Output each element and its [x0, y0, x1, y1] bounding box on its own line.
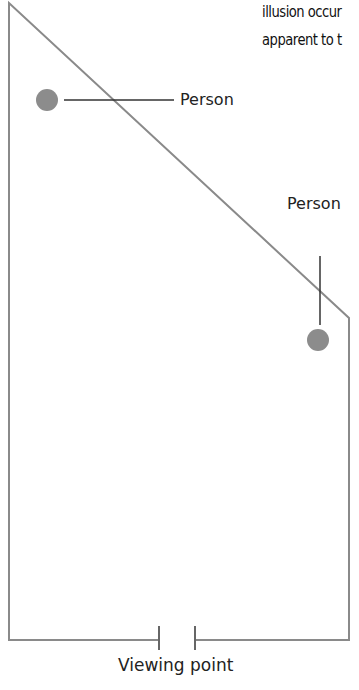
person-label-1: Person: [180, 90, 234, 109]
person-dot-1: [36, 89, 58, 111]
person-label-2: Person: [287, 194, 341, 213]
viewing-point-label: Viewing point: [118, 655, 233, 675]
person-dot-2: [307, 329, 329, 351]
room-outline: [9, 3, 349, 640]
